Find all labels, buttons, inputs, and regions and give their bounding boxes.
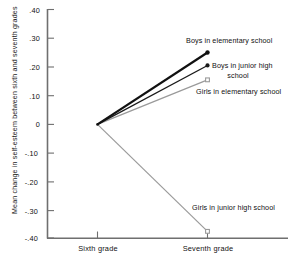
marker-boys-elementary bbox=[205, 50, 209, 54]
series-label-girls-elementary: Girls in elementary school bbox=[196, 87, 281, 97]
x-tick-label-seventh-grade: Seventh grade bbox=[178, 244, 238, 253]
marker-girls-elementary bbox=[206, 78, 210, 82]
marker-boys-junior-high bbox=[205, 63, 209, 67]
y-tick-label-020: .20 bbox=[14, 63, 40, 72]
x-axis-ticks bbox=[98, 232, 208, 239]
y-tick-label-n030: -.30 bbox=[12, 207, 38, 216]
y-tick-label-n040: -.40 bbox=[12, 234, 38, 243]
y-tick-label-n020: -.20 bbox=[12, 178, 38, 187]
series-line-girls-junior-high bbox=[98, 124, 208, 231]
series-line-boys-elementary bbox=[98, 53, 208, 125]
x-tick-label-sixth-grade: Sixth grade bbox=[70, 244, 126, 253]
y-axis-ticks bbox=[48, 10, 54, 239]
y-tick-label-n010: -.10 bbox=[12, 149, 38, 158]
marker-origin bbox=[96, 123, 99, 126]
series-line-girls-elementary bbox=[98, 80, 208, 125]
series-label-boys-elementary: Boys in elementary school bbox=[186, 36, 272, 46]
series-line-boys-junior-high bbox=[98, 65, 208, 124]
y-tick-label-040: .40 bbox=[14, 6, 40, 15]
y-tick-label-0: 0 bbox=[14, 120, 40, 129]
series-label-girls-junior-high: Girls in junior high school bbox=[192, 203, 275, 213]
series-label-boys-junior-high-line1: Boys in junior high bbox=[212, 61, 273, 70]
marker-girls-junior-high bbox=[206, 229, 210, 233]
chart-container: Mean change in self-esteem between sixth… bbox=[0, 0, 295, 258]
y-tick-label-010: .10 bbox=[14, 92, 40, 101]
series-label-boys-junior-high: Boys in junior high school bbox=[212, 61, 274, 80]
series-label-boys-junior-high-line2: school bbox=[212, 71, 264, 81]
y-tick-label-030: .30 bbox=[14, 34, 40, 43]
